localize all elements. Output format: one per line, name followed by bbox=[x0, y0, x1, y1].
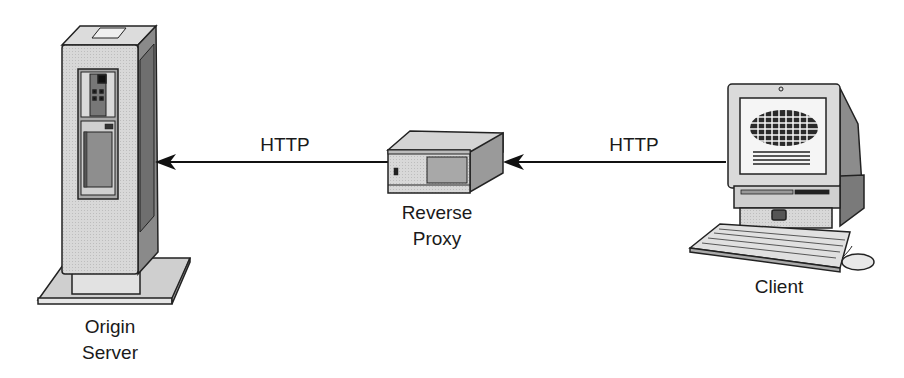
proxy-label-line1: Reverse bbox=[402, 202, 473, 223]
origin-label-line1: Origin bbox=[85, 316, 136, 337]
diagram-canvas: Origin Reverse Proxy bbox=[0, 0, 904, 378]
edge-label-client-proxy: HTTP bbox=[609, 134, 659, 155]
arrow-client-to-proxy bbox=[503, 154, 726, 170]
edge-label-proxy-origin: HTTP bbox=[260, 134, 310, 155]
origin-label-line2: Server bbox=[82, 342, 139, 363]
desktop-computer-icon bbox=[690, 84, 874, 272]
proxy-box-icon bbox=[388, 131, 503, 193]
proxy-label-line2: Proxy bbox=[413, 228, 462, 249]
client-label: Client bbox=[755, 276, 804, 297]
arrow-proxy-to-origin bbox=[155, 154, 388, 170]
